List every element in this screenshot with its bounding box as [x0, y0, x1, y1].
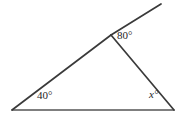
triangle-right-side-line: [111, 35, 174, 110]
right-unknown-angle-label: x°: [149, 89, 158, 100]
left-interior-angle-label: 40°: [37, 90, 52, 101]
apex-exterior-angle-label: 80°: [117, 30, 132, 41]
triangle-left-side-line: [12, 35, 111, 110]
geometry-figure: 80° 40° x°: [0, 0, 186, 117]
